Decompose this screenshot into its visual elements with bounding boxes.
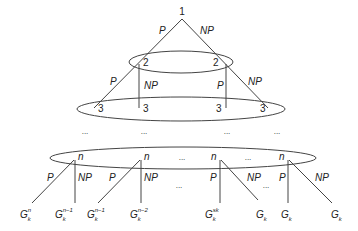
continuation-dots: ... bbox=[179, 153, 186, 162]
leaf-payoff: Gk bbox=[281, 209, 293, 222]
continuation-dots: ... bbox=[245, 153, 252, 162]
edge-root-right bbox=[182, 19, 268, 108]
edge-label-p: P bbox=[279, 172, 286, 183]
node-3: 3 bbox=[143, 103, 149, 114]
node-n: n bbox=[144, 151, 150, 162]
edge-label-np: NP bbox=[315, 172, 329, 183]
node-2-right: 2 bbox=[213, 57, 219, 68]
leaf-payoff: Gkn−1 bbox=[87, 207, 105, 222]
node-3: 3 bbox=[98, 103, 104, 114]
node-n: n bbox=[279, 151, 285, 162]
tree-svg: 1 P NP 2 2 P NP P NP 3 3 3 3 ... ... ...… bbox=[0, 0, 358, 231]
leaf-payoff: Gk bbox=[256, 209, 268, 222]
edge-label-np: NP bbox=[247, 172, 261, 183]
continuation-dots: ... bbox=[263, 181, 270, 190]
edge-label-p: P bbox=[210, 172, 217, 183]
leaf-payoff: Gkn bbox=[20, 207, 32, 222]
continuation-dots: ... bbox=[82, 127, 89, 136]
leaf-payoff: Gkn−1 bbox=[55, 207, 73, 222]
edge-label-p: P bbox=[110, 76, 117, 87]
leaf-payoff: Gksk bbox=[205, 207, 220, 222]
edge-label-p: P bbox=[217, 80, 224, 91]
node-3: 3 bbox=[216, 103, 222, 114]
continuation-dots: ... bbox=[176, 181, 183, 190]
edge-label-p: P bbox=[109, 172, 116, 183]
continuation-dots: ... bbox=[274, 127, 281, 136]
edge-label-np: NP bbox=[200, 25, 214, 36]
node-n: n bbox=[78, 151, 84, 162]
leaf-payoffs: Gkn Gkn−1 Gkn−1 Gkn−2 Gksk Gk Gk Gk bbox=[20, 207, 343, 222]
edge-label-p: P bbox=[159, 25, 166, 36]
leaf-payoff: Gkn−2 bbox=[130, 207, 149, 222]
edge-root-left bbox=[94, 19, 182, 108]
node-3: 3 bbox=[260, 103, 266, 114]
continuation-dots: ... bbox=[224, 127, 231, 136]
edge-label-p: P bbox=[47, 172, 54, 183]
node-n: n bbox=[211, 151, 217, 162]
root-node: 1 bbox=[179, 6, 185, 17]
continuation-dots: ... bbox=[141, 127, 148, 136]
edge-label-np: NP bbox=[78, 172, 92, 183]
decision-tree-diagram: 1 P NP 2 2 P NP P NP 3 3 3 3 ... ... ...… bbox=[0, 0, 358, 231]
edge-label-np: NP bbox=[144, 80, 158, 91]
node-2-left: 2 bbox=[143, 57, 149, 68]
info-set-ellipse-level3 bbox=[77, 97, 285, 121]
leaf-payoff: Gk bbox=[331, 209, 343, 222]
edge-label-np: NP bbox=[144, 172, 158, 183]
edge-label-np: NP bbox=[248, 76, 262, 87]
